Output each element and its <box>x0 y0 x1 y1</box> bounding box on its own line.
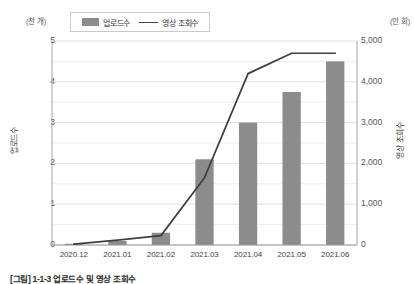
legend-item-upload-count[interactable]: 업로드수 <box>82 17 130 28</box>
bar-upload-count[interactable] <box>239 123 257 245</box>
left-tick-label: 2 <box>15 158 55 167</box>
plot-area <box>52 41 357 245</box>
right-tick-label: 4,000 <box>361 77 407 86</box>
bar-swatch-icon <box>82 18 99 26</box>
line-swatch-icon <box>139 22 158 23</box>
right-tick-label: 0 <box>361 240 407 249</box>
legend-label-view-count: 영상 조회수 <box>162 17 198 28</box>
left-tick-label: 5 <box>15 36 55 45</box>
x-tick-label: 2021.02 <box>139 250 183 259</box>
bar-upload-count[interactable] <box>195 159 213 245</box>
x-tick-label: 2021.06 <box>313 250 357 259</box>
left-tick-label: 3 <box>15 118 55 127</box>
right-axis-unit-label: (만 회) <box>390 15 410 26</box>
bar-upload-count[interactable] <box>282 92 300 245</box>
x-tick-label: 2020.12 <box>52 250 96 259</box>
right-tick-label: 5,000 <box>361 36 407 45</box>
chart-legend: 업로드수 영상 조회수 <box>70 12 210 32</box>
x-tick-label: 2021.05 <box>270 250 314 259</box>
left-tick-label: 1 <box>15 199 55 208</box>
bar-upload-count[interactable] <box>326 61 344 245</box>
x-tick-label: 2021.03 <box>183 250 227 259</box>
chart-canvas <box>52 41 357 245</box>
right-tick-label: 3,000 <box>361 118 407 127</box>
legend-label-upload-count: 업로드수 <box>103 17 130 28</box>
left-tick-label: 4 <box>15 77 55 86</box>
x-tick-label: 2021.04 <box>226 250 270 259</box>
right-tick-label: 2,000 <box>361 158 407 167</box>
x-tick-label: 2021.01 <box>96 250 140 259</box>
legend-item-view-count[interactable]: 영상 조회수 <box>139 17 198 28</box>
left-axis-unit-label: (천 개) <box>26 15 46 26</box>
right-tick-label: 1,000 <box>361 199 407 208</box>
figure-caption: [그림] 1-1-3 업로드수 및 영상 조회수 <box>10 272 136 284</box>
left-tick-label: 0 <box>15 240 55 249</box>
